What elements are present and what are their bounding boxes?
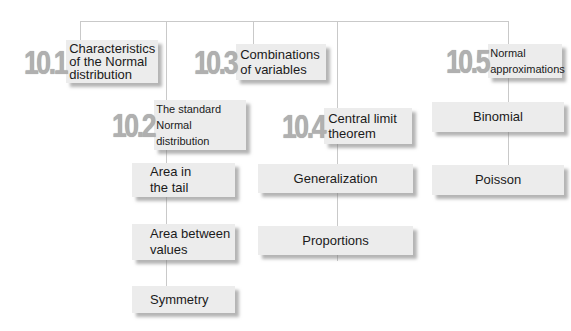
section-10-3: 10.3 Combinations of variables	[182, 44, 326, 80]
section-number: 10.4	[282, 109, 324, 143]
connector-top	[80, 21, 509, 22]
section-10-4: 10.4 Central limit theorem	[270, 108, 412, 144]
leaf-proportions: Proportions	[258, 226, 413, 255]
leaf-poisson: Poisson	[432, 165, 564, 195]
leaf-area-between-values: Area between values	[132, 224, 235, 260]
section-number: 10.5	[446, 44, 488, 78]
section-10-2: 10.2 The standard Normal distribution	[100, 100, 246, 150]
section-10-5: 10.5 Normal approximations	[434, 44, 562, 78]
section-number: 10.2	[112, 108, 154, 142]
section-title: Central limit theorem	[324, 108, 412, 144]
leaf-symmetry: Symmetry	[132, 286, 235, 313]
leaf-binomial: Binomial	[432, 102, 564, 132]
section-title: The standard Normal distribution	[154, 100, 246, 150]
section-number: 10.1	[24, 45, 66, 79]
section-number: 10.3	[194, 45, 236, 79]
section-title: Characteristics of the Normal distributi…	[66, 40, 158, 83]
section-title: Normal approximations	[488, 44, 562, 78]
leaf-area-in-the-tail: Area in the tail	[132, 163, 235, 197]
leaf-generalization: Generalization	[258, 164, 413, 193]
section-10-1: 10.1 Characteristics of the Normal distr…	[12, 40, 158, 83]
section-title: Combinations of variables	[236, 44, 326, 80]
